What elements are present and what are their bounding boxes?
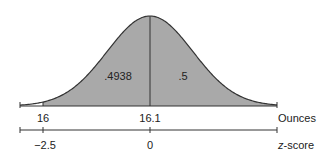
area-label-left: .4938 — [104, 70, 132, 82]
z-axis-title: z-score — [278, 139, 314, 151]
ounces-axis-title: Ounces — [278, 112, 316, 124]
z-axis-suffix: -score — [284, 139, 315, 151]
ounces-label-16: 16 — [37, 112, 49, 124]
z-label-neg2_5: −2.5 — [34, 139, 56, 151]
distribution-plot — [0, 0, 327, 160]
ounces-label-mean: 16.1 — [139, 112, 160, 124]
shaded-area — [43, 16, 277, 106]
area-label-right: .5 — [178, 70, 187, 82]
z-label-0: 0 — [147, 139, 153, 151]
normal-distribution-figure: .4938 .5 16 16.1 Ounces −2.5 0 z-score — [0, 0, 327, 160]
